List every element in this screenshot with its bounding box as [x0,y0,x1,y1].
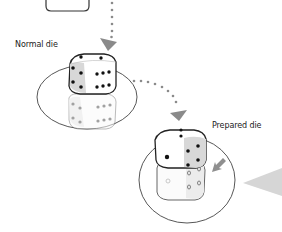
pointer-wedge [243,168,282,196]
dotted-arrow-2 [133,80,187,121]
diagram-canvas [0,0,282,232]
dotted-arrow-1 [100,2,117,51]
normal-die-reflection [69,94,116,129]
prepared-die-label: Prepared die [212,121,261,130]
prepared-die [155,128,206,168]
normal-die [69,54,116,94]
small-arrow-icon [212,158,226,172]
top-box [46,0,89,11]
normal-die-label: Normal die [15,40,58,49]
